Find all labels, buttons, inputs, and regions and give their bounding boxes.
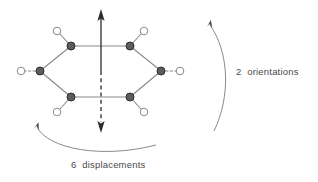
vertex-top-right <box>126 42 134 50</box>
substituent-top-left <box>53 27 61 35</box>
substituent-left <box>17 67 25 75</box>
vertex-right <box>157 67 165 75</box>
orientations-label: 2 orientations <box>236 67 299 77</box>
bond-upper-right <box>130 46 161 71</box>
vertex-top-left <box>67 42 75 50</box>
axis-down-arrowhead <box>97 121 104 133</box>
molecule-diagram <box>0 0 318 182</box>
vertical-c2-axis <box>97 9 104 133</box>
bond-upper-left <box>40 46 71 71</box>
figure-root: 2 orientations 6 displacements <box>0 0 318 182</box>
substituent-bottom-right <box>140 108 148 116</box>
bond-lower-right <box>130 71 161 97</box>
substituent-bottom-left <box>53 108 61 116</box>
bond-lower-left <box>40 71 71 97</box>
displacements-label: 6 displacements <box>71 160 146 170</box>
orientations-rotation-arrow <box>210 25 226 131</box>
vertex-bottom-left <box>67 93 75 101</box>
vertex-bottom-right <box>126 93 134 101</box>
substituent-right <box>176 67 184 75</box>
displacements-rotation-arrow <box>37 127 156 151</box>
vertex-left <box>36 67 44 75</box>
substituent-top-right <box>140 27 148 35</box>
